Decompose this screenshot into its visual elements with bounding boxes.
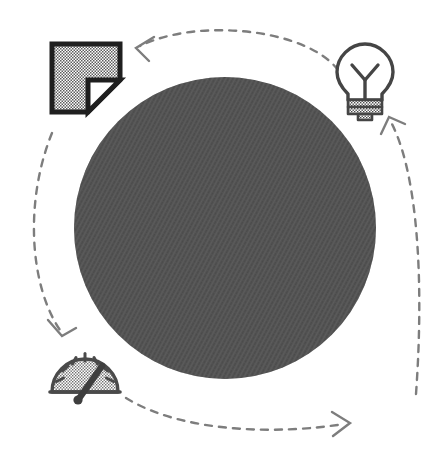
lightbulb-idea-icon[interactable] [337,44,393,120]
document-folded-corner-icon[interactable] [52,44,120,112]
arrow-gauge-to-right [126,398,350,436]
center-disc [74,77,376,379]
arrow-lightbulb-to-document [136,30,338,70]
process-cycle-diagram [0,0,442,458]
arrow-document-to-gauge [34,133,76,336]
arrow-bottom-to-lightbulb [381,117,419,394]
diagram-canvas [0,0,442,458]
gauge-speedometer-icon[interactable] [50,354,120,405]
